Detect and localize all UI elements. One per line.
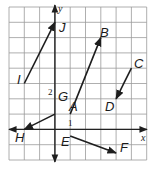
vectors — [24, 22, 131, 153]
label-E: E — [61, 134, 70, 149]
label-F: F — [120, 140, 129, 155]
x-axis-label: x — [140, 132, 146, 143]
grid-lines — [9, 7, 147, 160]
y-axis-label: y — [57, 3, 63, 14]
label-A: A — [68, 99, 78, 114]
label-G: G — [58, 89, 68, 104]
label-C: C — [134, 56, 144, 71]
label-J: J — [58, 20, 66, 35]
coordinate-grid: y x 2 1 I J A B C D G H E F — [0, 0, 155, 176]
point-labels: I J A B C D G H E F — [15, 20, 144, 155]
label-I: I — [17, 72, 21, 87]
label-B: B — [100, 25, 109, 40]
y-tick-2: 2 — [48, 87, 53, 97]
label-D: D — [105, 99, 114, 114]
x-tick-1: 1 — [68, 118, 73, 128]
label-H: H — [15, 130, 25, 145]
